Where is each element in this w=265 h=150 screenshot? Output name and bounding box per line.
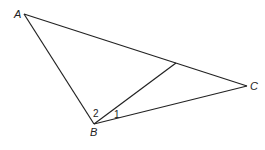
segment-ac <box>24 14 247 86</box>
angle-label-1: 1 <box>114 109 120 120</box>
vertex-label-b: B <box>90 126 97 138</box>
segment-bd <box>94 63 176 124</box>
vertex-label-a: A <box>13 8 21 20</box>
angle-label-2: 2 <box>93 108 99 119</box>
segment-ab <box>24 14 94 124</box>
vertex-label-c: C <box>250 80 258 92</box>
triangle-diagram: A B C 2 1 <box>0 0 265 150</box>
